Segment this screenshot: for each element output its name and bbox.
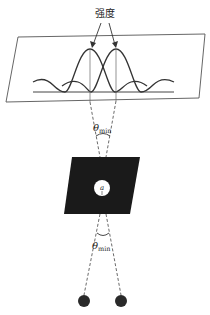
ray-lower-right (106, 214, 121, 295)
arrow-left (93, 23, 101, 45)
ray-lower-left (84, 214, 100, 295)
theta-min-bottom-label: θmin (92, 240, 110, 253)
angle-arc-bottom (97, 233, 109, 236)
diagram-canvas: 强度 θmin a θmin (0, 0, 210, 315)
intensity-label: 强度 (95, 7, 115, 19)
arrowhead-right-icon (112, 41, 118, 48)
arrowhead-left-icon (90, 41, 96, 48)
arrow-right (109, 23, 115, 45)
aperture-label: a (100, 184, 104, 192)
point-source-right (115, 295, 127, 307)
point-source-left (78, 295, 90, 307)
diffraction-pattern-right (62, 49, 174, 92)
